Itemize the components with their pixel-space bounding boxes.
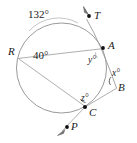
point-label-c: C bbox=[89, 107, 96, 118]
arc-measure-132: 132° bbox=[28, 9, 49, 20]
point-label-p: P bbox=[71, 121, 78, 132]
segment-cb bbox=[85, 88, 117, 107]
arrowhead-p-icon bbox=[58, 130, 66, 136]
point-dot-t bbox=[87, 14, 91, 18]
point-label-a: A bbox=[108, 40, 115, 51]
point-dot-c bbox=[83, 105, 87, 109]
point-label-b: B bbox=[118, 82, 125, 93]
circle-shape bbox=[17, 23, 107, 113]
angle-label-y: y° bbox=[88, 56, 96, 66]
geometry-diagram: T A B C P R 132° 40° y° x° z° bbox=[0, 0, 137, 143]
point-label-r: R bbox=[8, 46, 15, 57]
angle-arc-x bbox=[109, 77, 111, 85]
angle-label-40: 40° bbox=[33, 50, 48, 61]
angle-label-z: z° bbox=[81, 94, 89, 104]
point-label-t: T bbox=[94, 10, 100, 21]
point-dot-a bbox=[101, 46, 105, 50]
point-dot-p bbox=[65, 125, 69, 129]
angle-label-x: x° bbox=[112, 69, 120, 79]
